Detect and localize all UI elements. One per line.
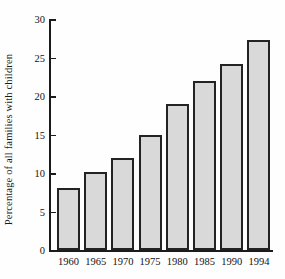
bar-rect [247,40,270,250]
y-tick-label: 0 [40,245,45,256]
plot-area: 051015202530 196019651970197519801985199… [49,14,273,256]
y-tick-label: 5 [40,206,45,217]
bar-rect [139,135,162,251]
bar-1990 [220,64,243,250]
bar-1975 [139,135,162,251]
bar-chart-figure: Percentage of all families with children… [0,0,285,279]
bars-layer [49,14,273,252]
y-tick-label: 25 [35,52,46,63]
bar-1970 [111,158,134,250]
bar-rect [111,158,134,250]
bar-1985 [193,81,216,250]
bar-1965 [84,172,107,250]
bar-1994 [247,40,270,250]
bar-rect [193,81,216,250]
x-tick-label-1994: 1994 [243,256,274,267]
y-tick-label: 10 [35,168,46,179]
y-axis-title: Percentage of all families with children [0,0,16,279]
bar-rect [57,188,80,250]
bar-rect [220,64,243,250]
bar-1960 [57,188,80,250]
bar-1980 [166,104,189,250]
y-tick-label: 15 [35,129,46,140]
y-tick-label: 20 [35,91,46,102]
bar-rect [166,104,189,250]
bar-rect [84,172,107,250]
y-tick-label: 30 [35,14,46,25]
